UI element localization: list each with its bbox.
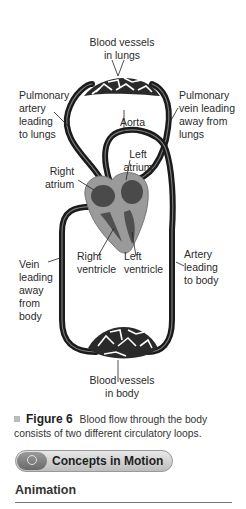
label-vein-body: Vein leading away from body xyxy=(19,258,53,323)
figure-label: Figure 6 xyxy=(26,412,73,426)
concentric-circles-icon xyxy=(17,452,47,470)
divider xyxy=(15,502,232,503)
label-blood-vessels-lungs: Blood vessels in lungs xyxy=(82,36,162,62)
figure-caption: Figure 6 Blood flow through the body con… xyxy=(14,412,239,441)
lung-capillaries xyxy=(84,60,160,96)
label-pulmonary-artery: Pulmonary artery leading to lungs xyxy=(19,89,69,141)
bullet-square-icon xyxy=(14,416,20,422)
label-right-ventricle: Right ventricle xyxy=(77,250,116,276)
heart-illustration xyxy=(85,173,148,254)
label-pulmonary-vein: Pulmonary vein leading away from lungs xyxy=(179,89,235,141)
animation-heading: Animation xyxy=(15,483,76,497)
label-artery-body: Artery leading to body xyxy=(184,248,218,287)
concepts-in-motion-button[interactable]: Concepts in Motion xyxy=(15,450,173,472)
concepts-in-motion-label: Concepts in Motion xyxy=(52,454,163,468)
label-left-ventricle: Left ventricle xyxy=(124,250,163,276)
label-left-atrium: Left atrium xyxy=(118,148,158,174)
label-right-atrium: Right atrium xyxy=(45,165,74,191)
label-aorta: Aorta xyxy=(120,116,145,129)
label-blood-vessels-body: Blood vessels in body xyxy=(82,374,162,400)
